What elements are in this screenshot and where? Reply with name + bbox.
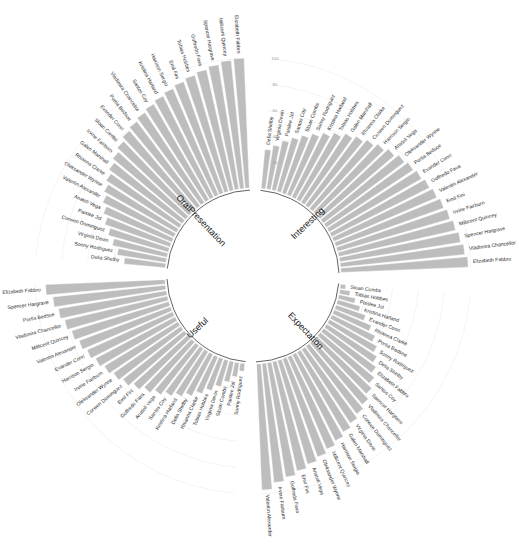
y-axis-tick-60: 60	[273, 108, 278, 113]
category-label: Spencer Hargrave	[7, 299, 49, 310]
category-label: Millicent Quincey	[458, 211, 497, 226]
category-labels-layer: Sonny RodriguezPaislee JolSloan CombsVir…	[2, 15, 516, 537]
category-label: Spencer Hargrave	[203, 19, 217, 61]
category-label: Goffredo Fava	[289, 480, 301, 513]
category-label: Goffredo Fava	[190, 34, 204, 67]
category-label: Emil Fini	[301, 474, 312, 494]
category-label: Tobias Hobbes	[176, 39, 192, 73]
chart-canvas: Sonny RodriguezPaislee JolSloan CombsVir…	[0, 0, 519, 550]
category-label: Vladimira Chancellor	[469, 239, 517, 251]
bar	[339, 289, 350, 295]
bar	[239, 363, 245, 371]
category-label: Elizabeth Fabbro	[473, 256, 512, 265]
category-label: Portia Bedsoe	[22, 311, 55, 323]
bar	[340, 284, 346, 289]
category-label: Spencer Hargrave	[464, 225, 506, 239]
category-label: Elizabeth Fabbro	[2, 286, 41, 295]
circular-barplot-figure: Sonny RodriguezPaislee JolSloan CombsVir…	[0, 0, 519, 550]
category-label: Emil Fini	[445, 191, 465, 204]
group-label-useful: Useful	[185, 315, 210, 340]
category-label: Millicent Quincey	[218, 17, 229, 56]
group-labels-layer: UsefulExpectationInterestingOralPresenta…	[174, 193, 326, 352]
category-label: Valentin Alexander	[265, 494, 274, 537]
y-axis-tick-100: 100	[271, 56, 279, 61]
y-axis-tick-20: 20	[273, 160, 278, 165]
y-axis-tick-80: 80	[273, 82, 278, 87]
category-label: Delia Shelby	[91, 253, 121, 262]
category-label: Elizabeth Fabbro	[234, 15, 243, 54]
category-label: Emil Fini	[168, 59, 181, 79]
category-label: Sonny Rodriguez	[233, 375, 244, 415]
category-label: Irvine Fairburn	[452, 199, 485, 215]
y-axis-tick-40: 40	[273, 134, 278, 139]
category-label: Anatoli Vega	[311, 466, 325, 495]
